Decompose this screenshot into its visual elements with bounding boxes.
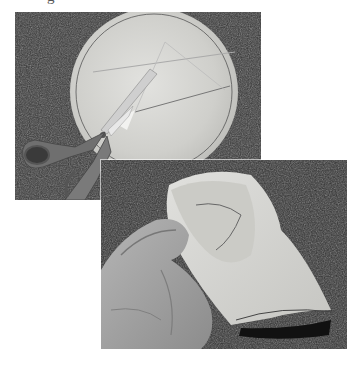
photo-hand-holding-tissue (101, 160, 347, 349)
tissue-circle (70, 12, 238, 176)
cutoff-text-fragment: g (47, 0, 55, 4)
